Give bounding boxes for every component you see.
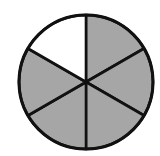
fraction-circle	[0, 0, 160, 156]
fraction-circle-diagram: Circle divided into 6 equal sectors, 5 s…	[0, 0, 160, 156]
